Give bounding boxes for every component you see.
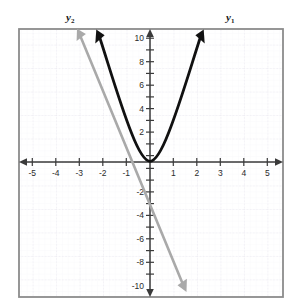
y-tick-label: -8 (136, 257, 144, 267)
x-tick-label: 3 (218, 168, 223, 178)
x-tick-label: -3 (76, 168, 84, 178)
x-tick-label: -4 (52, 168, 60, 178)
y-tick-label: -6 (136, 234, 144, 244)
x-tick-label: 1 (171, 168, 176, 178)
x-tick-label: -2 (99, 168, 107, 178)
x-tick-label: 5 (265, 168, 270, 178)
y-tick-label: 8 (139, 57, 144, 67)
y-tick-label: 4 (139, 104, 144, 114)
y-tick-label: 6 (139, 80, 144, 90)
y-tick-label: 10 (135, 33, 145, 43)
graph-figure: y2 y1 (0, 0, 300, 307)
x-tick-label: -1 (123, 168, 131, 178)
y-tick-label: 2 (139, 127, 144, 137)
x-tick-label: 4 (241, 168, 246, 178)
x-tick-label: -5 (29, 168, 37, 178)
plot-area: -5 -4 -3 -2 -1 1 2 3 4 5 10 8 6 4 2 -2 -… (0, 0, 300, 307)
x-tick-label: 2 (194, 168, 199, 178)
y-tick-label: -10 (132, 281, 145, 291)
y-tick-label: -4 (136, 210, 144, 220)
